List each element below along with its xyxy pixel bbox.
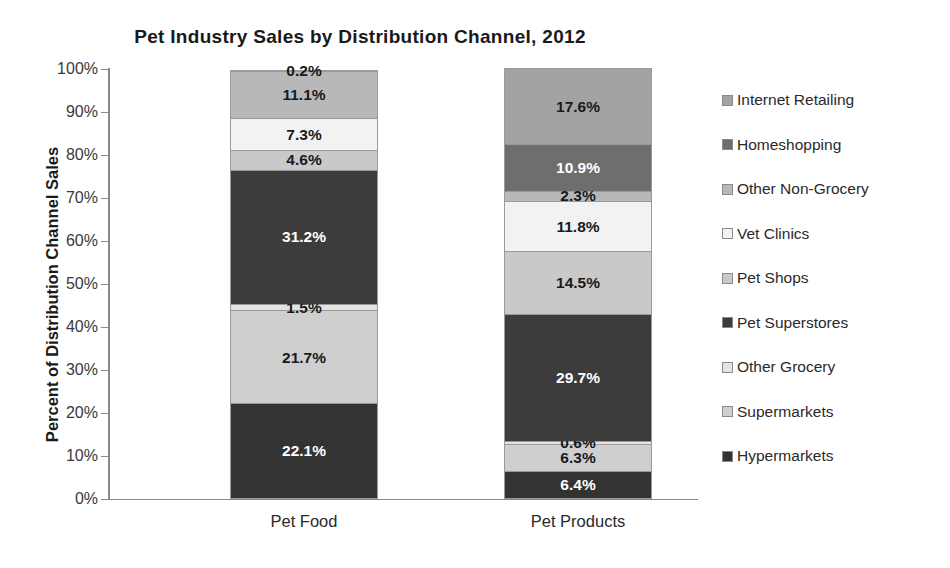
x-axis-category-label: Pet Food [204, 512, 404, 531]
legend-item[interactable]: Pet Shops [722, 256, 950, 301]
bar-segment[interactable]: 17.6% [504, 68, 652, 144]
y-tick-label: 90% [66, 103, 98, 121]
legend-item[interactable]: Pet Superstores [722, 301, 950, 346]
y-tick-mark [101, 499, 108, 501]
bar-segment-value-label: 11.1% [282, 87, 325, 103]
legend-label: Other Grocery [737, 358, 835, 376]
y-tick-mark [101, 413, 108, 415]
legend-label: Vet Clinics [737, 225, 809, 243]
y-tick-mark [101, 198, 108, 200]
y-tick-label: 30% [66, 361, 98, 379]
bar-segment-value-label: 22.1% [282, 443, 326, 459]
y-tick-label: 40% [66, 318, 98, 336]
bar-segment-value-label: 2.3% [560, 188, 595, 204]
bar-segment-value-label: 7.3% [286, 127, 321, 143]
bar-segment[interactable]: 7.3% [230, 118, 378, 149]
bar-segment[interactable]: 4.6% [230, 150, 378, 170]
bar-segment-value-label: 4.6% [286, 152, 321, 168]
bar-segment[interactable]: 0.2% [230, 70, 378, 71]
legend-swatch-icon [722, 362, 733, 373]
legend-label: Hypermarkets [737, 447, 833, 465]
y-tick-mark [101, 370, 108, 372]
bar-segment[interactable]: 22.1% [230, 403, 378, 498]
bar-segment-value-label: 10.9% [556, 160, 600, 176]
bar-segment-value-label: 17.6% [556, 99, 600, 115]
legend-label: Other Non-Grocery [737, 180, 869, 198]
y-axis-title: Percent of Distribution Channel Sales [43, 80, 62, 510]
legend-swatch-icon [722, 184, 733, 195]
chart-container: Pet Industry Sales by Distribution Chann… [0, 0, 950, 568]
bar-segment[interactable]: 0.6% [504, 441, 652, 444]
bar-segment-value-label: 11.8% [556, 219, 599, 235]
bar-segment[interactable]: 10.9% [504, 144, 652, 191]
y-tick-label: 50% [66, 275, 98, 293]
y-tick-label: 0% [75, 490, 98, 508]
chart-legend: Internet RetailingHomeshoppingOther Non-… [722, 78, 950, 479]
bar-segment-value-label: 6.4% [560, 477, 595, 493]
y-tick-mark [101, 69, 108, 71]
legend-swatch-icon [722, 451, 733, 462]
y-tick-label: 20% [66, 404, 98, 422]
bar-stack: 6.4%6.3%0.6%29.7%14.5%11.8%2.3%10.9%17.6… [504, 69, 652, 499]
bar-segment-value-label: 14.5% [556, 275, 600, 291]
legend-swatch-icon [722, 228, 733, 239]
bar-segment-value-label: 21.7% [282, 350, 326, 366]
legend-label: Homeshopping [737, 136, 841, 154]
legend-swatch-icon [722, 139, 733, 150]
y-tick-mark [101, 284, 108, 286]
y-tick-mark [101, 456, 108, 458]
bar-stack: 22.1%21.7%1.5%31.2%4.6%7.3%11.1%0.2% [230, 69, 378, 499]
y-tick-label: 70% [66, 189, 98, 207]
bar-segment[interactable]: 2.3% [504, 191, 652, 201]
bar-segment[interactable]: 11.8% [504, 201, 652, 252]
y-tick-mark [101, 327, 108, 329]
bar-segment[interactable]: 29.7% [504, 314, 652, 442]
legend-label: Pet Superstores [737, 314, 848, 332]
legend-item[interactable]: Homeshopping [722, 123, 950, 168]
legend-swatch-icon [722, 273, 733, 284]
y-tick-label: 10% [66, 447, 98, 465]
y-tick-mark [101, 155, 108, 157]
bar-segment-value-label: 0.2% [286, 63, 321, 79]
x-axis-line [108, 499, 698, 501]
legend-item[interactable]: Internet Retailing [722, 78, 950, 123]
legend-label: Pet Shops [737, 269, 809, 287]
chart-title: Pet Industry Sales by Distribution Chann… [0, 26, 720, 48]
plot-area: 100%90%80%70%60%50%40%30%20%10%0% 22.1%2… [108, 68, 698, 500]
bar-group[interactable]: 6.4%6.3%0.6%29.7%14.5%11.8%2.3%10.9%17.6… [504, 69, 652, 499]
bar-group[interactable]: 22.1%21.7%1.5%31.2%4.6%7.3%11.1%0.2% [230, 69, 378, 499]
y-tick-label: 100% [57, 60, 98, 78]
bar-segment[interactable]: 21.7% [230, 310, 378, 403]
bar-segment-value-label: 29.7% [556, 370, 600, 386]
legend-label: Supermarkets [737, 403, 833, 421]
bar-segment-value-label: 6.3% [560, 450, 595, 466]
y-tick-label: 60% [66, 232, 98, 250]
legend-item[interactable]: Other Non-Grocery [722, 167, 950, 212]
legend-item[interactable]: Hypermarkets [722, 434, 950, 479]
legend-label: Internet Retailing [737, 91, 854, 109]
bar-segment-value-label: 31.2% [282, 229, 326, 245]
legend-swatch-icon [722, 406, 733, 417]
legend-item[interactable]: Other Grocery [722, 345, 950, 390]
y-axis-line [108, 68, 110, 500]
y-tick-label: 80% [66, 146, 98, 164]
bar-segment[interactable]: 31.2% [230, 170, 378, 304]
legend-swatch-icon [722, 95, 733, 106]
legend-item[interactable]: Vet Clinics [722, 212, 950, 257]
bar-segment[interactable]: 1.5% [230, 304, 378, 310]
bar-segment[interactable]: 6.4% [504, 471, 652, 499]
x-axis-category-label: Pet Products [478, 512, 678, 531]
legend-swatch-icon [722, 317, 733, 328]
y-tick-mark [101, 112, 108, 114]
y-tick-mark [101, 241, 108, 243]
legend-item[interactable]: Supermarkets [722, 390, 950, 435]
bar-segment[interactable]: 14.5% [504, 251, 652, 313]
